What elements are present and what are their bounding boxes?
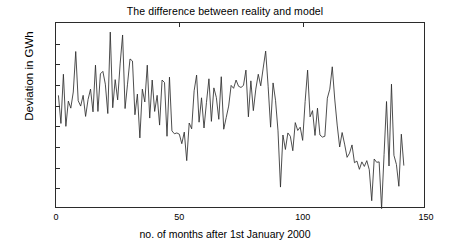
x-tick-label: 50	[159, 213, 199, 222]
chart-figure: The difference between reality and model…	[0, 0, 450, 251]
data-line	[58, 32, 403, 209]
y-tick-mark	[56, 188, 60, 189]
y-tick-mark	[56, 44, 60, 45]
x-tick-label: 100	[283, 213, 323, 222]
y-tick-mark	[56, 126, 60, 127]
x-tick-mark	[303, 23, 304, 27]
y-tick-mark	[56, 106, 60, 107]
x-tick-label: 0	[36, 213, 76, 222]
y-tick-mark	[56, 168, 60, 169]
series-plot	[56, 23, 426, 209]
y-tick-mark	[56, 85, 60, 86]
plot-area: 2000150010005000-500-1000-1500-2000-2500…	[55, 22, 425, 208]
y-tick-mark	[56, 64, 60, 65]
y-axis-label: Deviation in GWh	[23, 0, 35, 171]
y-tick-mark	[56, 147, 60, 148]
x-tick-mark	[179, 23, 180, 27]
chart-title: The difference between reality and model	[0, 5, 450, 17]
x-axis-label: no. of months after 1st January 2000	[0, 228, 450, 240]
x-tick-label: 150	[406, 213, 446, 222]
